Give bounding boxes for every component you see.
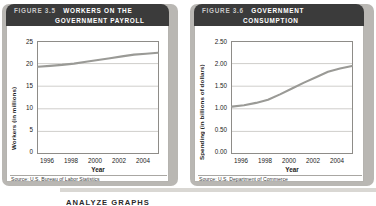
figure-35-plot-area	[37, 41, 159, 154]
figure-35-header-line1: FIGURE 3.5 WORKERS ON THE	[14, 6, 165, 16]
figure-36-y-axis-label: Spending (in billions of dollars)	[198, 34, 205, 160]
figure-36-ytick-000: 0.00	[205, 148, 227, 155]
figure-36-xtick-2002: 2002	[302, 157, 324, 164]
figure-35-y-axis-label: Workers (in millions)	[10, 46, 17, 150]
figure-36-title-line1: GOVERNMENT	[251, 7, 304, 14]
figure-35-xtick-1996: 1996	[36, 157, 58, 164]
figure-36-xtick-2004: 2004	[326, 157, 348, 164]
figure-36-x-axis-label: Year	[231, 166, 353, 173]
figure-36: FIGURE 3.6 GOVERNMENT CONSUMPTION Spendi…	[194, 4, 370, 182]
figure-36-header-line1: FIGURE 3.6 GOVERNMENT	[202, 6, 360, 16]
figure-35-header: FIGURE 3.5 WORKERS ON THE GOVERNMENT PAY…	[6, 4, 169, 26]
figure-36-xtick-1998: 1998	[254, 157, 276, 164]
figure-36-number: FIGURE 3.6	[202, 7, 244, 14]
figure-36-ytick-150: 1.50	[205, 82, 227, 89]
figure-36-xtick-1996: 1996	[230, 157, 252, 164]
figure-35-ytick-25: 25	[19, 38, 33, 45]
figure-35-title-line2: GOVERNMENT PAYROLL	[14, 16, 165, 26]
figure-35-number: FIGURE 3.5	[14, 7, 56, 14]
figure-36-xtick-2000: 2000	[278, 157, 300, 164]
figure-35-ytick-10: 10	[19, 104, 33, 111]
textbook-figure-page: FIGURE 3.5 WORKERS ON THE GOVERNMENT PAY…	[0, 0, 376, 206]
figure-36-line-chart-svg	[231, 41, 353, 154]
figure-36-ytick-050: 0.50	[205, 126, 227, 133]
figure-36-title-line2: CONSUMPTION	[202, 16, 360, 26]
footer-band	[60, 188, 376, 192]
figure-35-ytick-5: 5	[19, 126, 33, 133]
figure-35-ytick-15: 15	[19, 82, 33, 89]
figure-35-xtick-1998: 1998	[60, 157, 82, 164]
figure-35-body: Workers (in millions) 25 20 15 10 5 0	[6, 26, 169, 182]
figure-36-ytick-200: 2.00	[205, 60, 227, 67]
figure-35-ytick-20: 20	[19, 60, 33, 67]
figure-36-plot-area	[231, 41, 353, 154]
footer-heading: ANALYZE GRAPHS	[66, 198, 150, 206]
figure-35-source: Source: U.S. Bureau of Labor Statistics	[11, 176, 100, 182]
figure-35-xtick-2002: 2002	[108, 157, 130, 164]
figure-36-ytick-100: 1.00	[205, 104, 227, 111]
figure-36-body: Spending (in billions of dollars) 2.50 2…	[194, 26, 364, 182]
figure-36-source: Source: U.S. Department of Commerce	[199, 176, 288, 182]
figure-35-xtick-2000: 2000	[84, 157, 106, 164]
figure-35: FIGURE 3.5 WORKERS ON THE GOVERNMENT PAY…	[6, 4, 174, 182]
figure-35-title-line1: WORKERS ON THE	[63, 7, 132, 14]
figure-35-x-axis-label: Year	[37, 166, 159, 173]
figure-35-xtick-2004: 2004	[132, 157, 154, 164]
figure-35-line-chart-svg	[37, 41, 159, 154]
figure-35-ytick-0: 0	[19, 148, 33, 155]
figure-36-ytick-250: 2.50	[205, 38, 227, 45]
figure-36-header: FIGURE 3.6 GOVERNMENT CONSUMPTION	[194, 4, 364, 26]
